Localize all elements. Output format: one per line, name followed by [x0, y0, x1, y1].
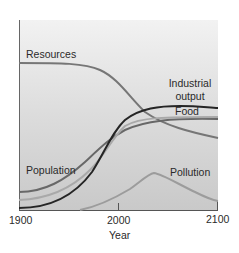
label-food: Food: [175, 106, 199, 117]
label-industrial-output: Industrial output: [160, 78, 220, 102]
x-tick-label-1900: 1900: [9, 214, 32, 226]
label-pollution: Pollution: [170, 167, 210, 178]
label-industrial-line2: output: [160, 91, 220, 102]
label-industrial-line1: Industrial: [160, 78, 220, 89]
label-resources: Resources: [26, 49, 76, 60]
x-tick-label-2000: 2000: [107, 214, 130, 226]
x-axis-title: Year: [109, 229, 130, 241]
x-tick-label-2100: 2100: [206, 213, 229, 225]
label-population: Population: [26, 165, 76, 176]
